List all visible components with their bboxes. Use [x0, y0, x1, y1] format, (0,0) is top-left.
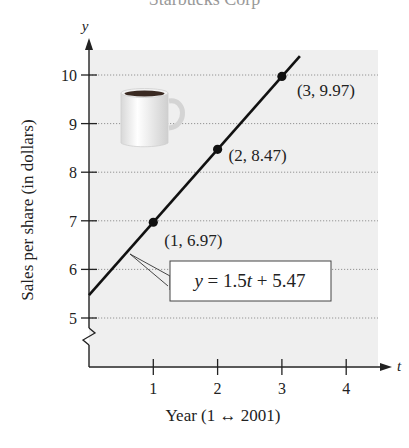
y-tick-label: 9: [69, 116, 77, 133]
y-tick-label: 10: [61, 67, 77, 84]
point-label: (3, 9.97): [297, 81, 355, 100]
x-tick-label: 4: [342, 380, 350, 397]
x-tick-label: 3: [278, 380, 286, 397]
chart-canvas: 5678910 1234 y t Sales per share (in dol…: [0, 0, 409, 448]
equation-label: y = 1.5t + 5.47: [192, 270, 305, 291]
x-tick-label: 1: [149, 380, 157, 397]
y-axis-symbol: y: [80, 18, 89, 34]
y-tick-label: 6: [69, 261, 77, 278]
x-tick-label: 2: [214, 380, 222, 397]
x-axis-symbol: t: [397, 358, 402, 374]
y-tick-label: 5: [69, 310, 77, 327]
y-tick-label: 8: [69, 164, 77, 181]
point-label: (2, 8.47): [229, 146, 287, 165]
x-axis-title: Year (1 ↔ 2001): [166, 406, 281, 425]
data-point: [277, 72, 286, 81]
point-label: (1, 6.97): [164, 231, 222, 250]
y-axis-arrow-icon: [85, 38, 93, 50]
y-axis-title: Sales per share (in dollars): [18, 119, 37, 300]
y-tick-label: 7: [69, 213, 77, 230]
chart-title: Starbucks Corp: [0, 0, 409, 10]
data-point: [149, 218, 158, 227]
data-point: [213, 145, 222, 154]
x-axis-arrow-icon: [380, 363, 392, 371]
